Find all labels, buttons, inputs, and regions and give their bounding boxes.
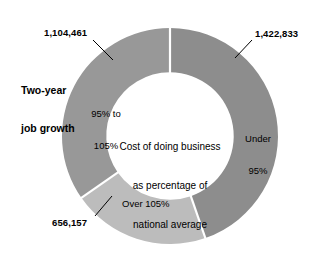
slice-label-under-95: Under 95% (237, 113, 279, 198)
donut-chart-figure: 1,104,461 1,422,833 656,157 Two-year job… (0, 0, 325, 257)
slice-label-under-95-line-2: 95% (237, 166, 279, 177)
center-caption-line-3: national average (103, 218, 237, 231)
center-caption-line-2: as percentage of (103, 179, 237, 192)
center-caption-line-1: Cost of doing business (103, 140, 237, 153)
chart-series-title: Two-year job growth (21, 58, 75, 160)
callout-value-95-to-105: 1,104,461 (44, 28, 87, 39)
series-title-line-2: job growth (21, 122, 75, 135)
donut-center-caption: Cost of doing business as percentage of … (103, 114, 237, 257)
series-title-line-1: Two-year (21, 84, 75, 97)
slice-label-under-95-line-1: Under (237, 134, 279, 145)
callout-value-over-105: 656,157 (52, 218, 87, 229)
callout-value-under-95: 1,422,833 (255, 29, 298, 40)
